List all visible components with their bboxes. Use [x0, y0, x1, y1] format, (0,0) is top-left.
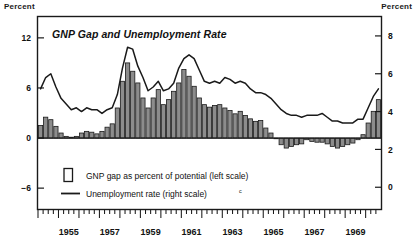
x-axis-year-label: 1963: [223, 227, 243, 237]
right-tick-label: 4: [388, 107, 393, 117]
bar: [366, 123, 370, 138]
bar: [253, 121, 257, 138]
x-axis-year-label: 1967: [304, 227, 324, 237]
bar: [79, 133, 83, 138]
bar: [284, 138, 288, 148]
bar: [105, 127, 109, 138]
x-axis-year-label: 1965: [263, 227, 283, 237]
bar: [351, 138, 355, 143]
bar: [300, 138, 304, 144]
legend-swatch-gnp-gap: [64, 169, 73, 182]
legend-footnote-marker: c: [239, 188, 242, 194]
bar: [90, 132, 94, 138]
bar: [110, 124, 114, 138]
x-axis-year-label: 1959: [141, 227, 161, 237]
left-tick-label: 12: [22, 33, 32, 43]
bar-series-gnp-gap: [38, 63, 380, 148]
bar: [197, 98, 201, 138]
x-axis-year-label: 1961: [182, 227, 202, 237]
bar: [371, 111, 375, 138]
bar: [131, 71, 135, 138]
right-axis-ticks: 86420: [375, 31, 393, 192]
bar: [330, 138, 334, 146]
bar: [315, 138, 319, 142]
bar: [156, 90, 160, 138]
bar: [120, 81, 124, 138]
bar: [289, 138, 293, 146]
bar: [228, 111, 232, 139]
bar: [340, 138, 344, 146]
bar: [238, 111, 242, 138]
gnp-gap-unemployment-chart: 1260−6 86420 195519571959196119631965196…: [0, 0, 416, 247]
right-tick-label: 6: [388, 69, 393, 79]
right-tick-label: 0: [388, 182, 393, 192]
bar: [187, 76, 191, 138]
chart-title: GNP Gap and Unemployment Rate: [52, 28, 227, 40]
left-axis-ticks: 1260−6: [21, 33, 44, 193]
bar: [335, 138, 339, 148]
bar: [166, 100, 170, 138]
bar: [259, 121, 263, 139]
bar: [202, 105, 206, 138]
bar: [125, 63, 129, 138]
bar: [141, 98, 145, 138]
bar: [207, 107, 211, 138]
left-tick-label: 6: [26, 83, 31, 93]
bar: [161, 105, 165, 138]
bar: [172, 91, 176, 138]
right-tick-label: 2: [388, 145, 393, 155]
left-axis-unit-label: Percent: [4, 2, 35, 11]
bar: [95, 134, 99, 138]
bar: [269, 133, 273, 138]
chart-figure: Percent Percent 1260−6 86420 19551957195…: [0, 0, 416, 247]
right-tick-label: 8: [388, 31, 393, 41]
left-tick-label: −6: [21, 183, 31, 193]
bar: [54, 126, 58, 138]
chart-legend: GNP gap as percent of potential (left sc…: [46, 160, 296, 204]
bar: [151, 98, 155, 138]
bar: [223, 108, 227, 138]
bar: [182, 70, 186, 138]
bar: [294, 138, 298, 145]
bar: [376, 100, 380, 138]
bar: [177, 83, 181, 138]
bar: [38, 126, 42, 139]
bar: [346, 138, 350, 145]
x-axis-year-label: 1957: [100, 227, 120, 237]
legend-label-unemployment-rate: Unemployment rate (right scale): [86, 189, 207, 199]
x-axis-year-label: 1955: [59, 227, 79, 237]
bar: [213, 105, 217, 138]
bar: [192, 86, 196, 138]
bar: [49, 120, 53, 138]
legend-label-gnp-gap: GNP gap as percent of potential (left sc…: [86, 171, 249, 181]
bar: [136, 83, 140, 138]
x-axis-year-label: 1969: [345, 227, 365, 237]
bar: [243, 116, 247, 139]
left-tick-label: 0: [26, 133, 31, 143]
bar: [85, 131, 89, 138]
bar: [325, 138, 329, 144]
bar: [233, 114, 237, 138]
bar: [218, 105, 222, 138]
bar: [320, 138, 324, 142]
bar: [115, 108, 119, 138]
bar: [248, 119, 252, 138]
bar: [44, 117, 48, 138]
right-axis-unit-label: Percent: [381, 2, 412, 11]
bar: [279, 138, 283, 145]
bar: [264, 128, 268, 138]
x-axis-year-labels: 19551957195919611963196519671969: [59, 227, 366, 237]
bar: [100, 131, 104, 138]
bar: [59, 133, 63, 138]
bar: [146, 108, 150, 138]
x-axis-ticks: [38, 209, 376, 218]
